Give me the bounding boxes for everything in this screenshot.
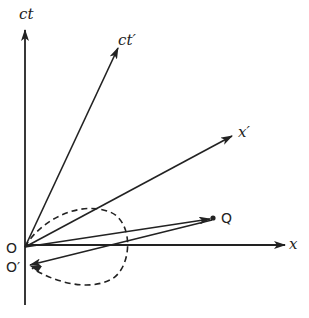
x-prime-axis: [25, 136, 232, 247]
origin-prime-label: O′: [6, 259, 20, 275]
ct-prime-axis: [25, 48, 118, 247]
ct-prime-label: ct′: [118, 31, 136, 49]
event-q-label: Q: [221, 210, 232, 226]
x-prime-label: x′: [238, 123, 250, 141]
dashed-loop-arrowhead: [30, 266, 42, 272]
ct-label: ct: [19, 5, 34, 23]
origin-label: O: [6, 240, 17, 256]
spacetime-diagram: ct ct′ x′ x O O′ Q: [0, 0, 309, 318]
event-q-dot: [210, 215, 215, 220]
x-label: x: [289, 235, 298, 253]
